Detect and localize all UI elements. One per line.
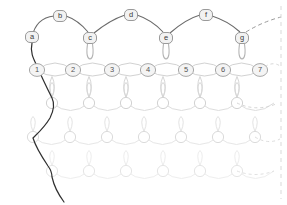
numbered-node[interactable]: 1 <box>29 64 44 77</box>
letter-node-a[interactable]: a <box>26 32 39 43</box>
letter-node-d[interactable]: d <box>125 10 138 21</box>
numbered-node-label: 2 <box>71 65 75 74</box>
mesh-row-2 <box>27 117 280 145</box>
numbered-node-label: 4 <box>146 65 150 74</box>
letter-node-b[interactable]: b <box>54 11 67 22</box>
numbered-node[interactable]: 7 <box>252 64 267 77</box>
letter-node-label: b <box>58 11 62 20</box>
numbered-node-label: 1 <box>35 65 39 74</box>
numbered-node-label: 6 <box>221 65 225 74</box>
letter-node-c[interactable]: c <box>84 33 97 44</box>
numbered-node-label: 7 <box>258 65 262 74</box>
dashed-top-continuation <box>246 17 281 32</box>
number-row-stems <box>50 77 240 98</box>
letter-node-label: c <box>88 33 92 42</box>
numbered-node[interactable]: 3 <box>104 64 119 77</box>
letter-node-label: g <box>240 33 244 42</box>
numbered-node-label: 5 <box>184 65 188 74</box>
numbered-node[interactable]: 6 <box>215 64 230 77</box>
letter-node-label: e <box>164 33 168 42</box>
letter-node-f[interactable]: f <box>200 10 213 21</box>
letter-node-label: d <box>129 10 133 19</box>
numbered-node[interactable]: 5 <box>178 64 193 77</box>
letter-node-group: a b c d e f g <box>26 10 249 44</box>
lattice-diagram-svg: 1 2 3 4 5 6 7 <box>0 0 287 205</box>
letter-node-stem-loops <box>87 44 245 59</box>
numbered-node[interactable]: 2 <box>65 64 80 77</box>
mesh-row-3 <box>46 151 274 179</box>
diagram-canvas: 1 2 3 4 5 6 7 <box>0 0 287 205</box>
numbered-node[interactable]: 4 <box>140 64 155 77</box>
letter-node-g[interactable]: g <box>236 33 249 44</box>
numbered-node-label: 3 <box>110 65 114 74</box>
letter-node-e[interactable]: e <box>160 33 173 44</box>
